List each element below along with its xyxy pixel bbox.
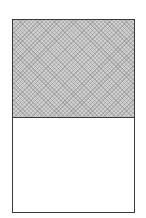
unshaded-region <box>13 118 134 212</box>
divided-rectangle <box>12 19 135 213</box>
shaded-region <box>13 20 134 118</box>
